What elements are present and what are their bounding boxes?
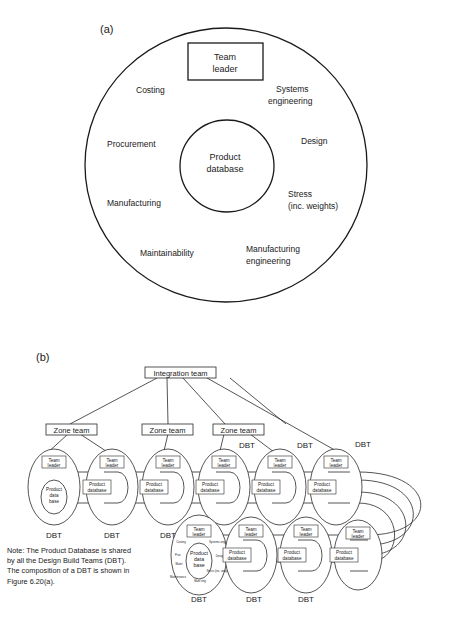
dbt-label: DBT — [298, 595, 314, 604]
function-systems-line1: Systems — [276, 84, 309, 94]
function-mfg-eng-line1: Manufacturing — [246, 244, 300, 254]
dbt-row2-c: Team leader Product database DBT — [278, 517, 332, 604]
svg-text:Product: Product — [336, 550, 353, 555]
svg-text:database: database — [201, 488, 220, 493]
function-costing: Costing — [136, 85, 165, 95]
svg-text:leader: leader — [245, 532, 258, 537]
dbt-label: DBT — [239, 441, 255, 450]
diagram-canvas: (a) Team leader Product database Costing… — [0, 0, 458, 622]
svg-text:base: base — [193, 562, 204, 568]
note-line-2: by all the Design Build Teams (DBT). — [7, 556, 157, 566]
function-procurement: Procurement — [107, 139, 156, 149]
dbt-row-2: Team leader Product data base Costing Sy… — [170, 515, 382, 604]
svg-text:Product: Product — [89, 482, 106, 487]
dbt-2: Team leader Product database DBT — [83, 449, 138, 540]
panel-b-label: (b) — [36, 351, 49, 363]
svg-text:Product: Product — [229, 550, 246, 555]
svg-text:Product: Product — [314, 482, 331, 487]
svg-text:leader: leader — [352, 534, 365, 539]
dbt-row2-d: Team leader Product database — [330, 520, 382, 590]
svg-text:leader: leader — [274, 463, 287, 468]
svg-text:Maint: Maint — [176, 562, 183, 566]
svg-text:data: data — [50, 493, 59, 498]
function-systems-line2: engineering — [268, 96, 313, 106]
svg-text:database: database — [145, 488, 164, 493]
svg-text:Maintenance: Maintenance — [170, 575, 186, 579]
svg-text:database: database — [313, 488, 332, 493]
svg-text:database: database — [88, 488, 107, 493]
svg-text:Product: Product — [202, 482, 219, 487]
svg-text:base: base — [49, 499, 59, 504]
team-leader-line1: Team — [214, 52, 236, 62]
note-line-1: Note: The Product Database is shared — [7, 546, 157, 556]
dbt-1: Team leader Product data base DBT — [28, 449, 80, 540]
svg-text:Manf eng: Manf eng — [194, 579, 206, 583]
svg-text:database: database — [228, 556, 247, 561]
dbt-label: DBT — [355, 440, 371, 449]
function-stress-line1: Stress — [288, 189, 312, 199]
svg-text:Product: Product — [258, 482, 275, 487]
svg-text:Product: Product — [146, 482, 163, 487]
dbt-5: Team leader Product database DBT — [252, 441, 313, 525]
svg-text:leader: leader — [193, 532, 206, 537]
note-line-3: The composition of a DBT is shown in — [7, 566, 157, 576]
dbt-label: DBT — [104, 531, 120, 540]
function-design: Design — [301, 136, 328, 146]
hierarchy-connectors — [45, 378, 340, 455]
product-database-line2: database — [206, 164, 243, 174]
zone-team-label-2: Zone team — [150, 426, 186, 435]
integration-team-label: Integration team — [153, 369, 207, 378]
dbt-4: Team leader Product database DBT — [196, 441, 255, 525]
svg-text:leader: leader — [218, 463, 231, 468]
zone-team-label-1: Zone team — [54, 426, 90, 435]
svg-text:database: database — [257, 488, 276, 493]
svg-text:leader: leader — [48, 463, 61, 468]
function-manufacturing: Manufacturing — [107, 198, 161, 208]
panel-a-label: (a) — [100, 23, 113, 35]
svg-text:database: database — [335, 556, 354, 561]
function-maintainability: Maintainability — [140, 248, 195, 258]
svg-text:Systems eng: Systems eng — [209, 540, 226, 544]
svg-text:leader: leader — [162, 463, 175, 468]
dbt-label: DBT — [246, 595, 262, 604]
dbt-row2-b: Team leader Product database DBT — [223, 517, 277, 604]
team-leader-line2: leader — [212, 64, 237, 74]
svg-text:Proc: Proc — [175, 553, 181, 557]
footnote: Note: The Product Database is shared by … — [7, 546, 157, 587]
svg-text:leader: leader — [300, 532, 313, 537]
dbt-detailed: Team leader Product data base Costing Sy… — [170, 515, 232, 604]
note-line-4: Figure 6.20(a). — [7, 577, 157, 587]
svg-text:Product: Product — [284, 550, 301, 555]
svg-text:Product: Product — [46, 487, 63, 492]
svg-text:Costing: Costing — [176, 540, 186, 544]
dbt-label: DBT — [297, 441, 313, 450]
dbt-6: Team leader Product database DBT — [308, 440, 371, 525]
dbt-label: DBT — [191, 595, 207, 604]
zone-team-label-3: Zone team — [221, 426, 257, 435]
svg-text:leader: leader — [330, 463, 343, 468]
dbt-label: DBT — [46, 531, 62, 540]
svg-text:leader: leader — [106, 463, 119, 468]
product-database-line1: Product — [209, 152, 241, 162]
function-mfg-eng-line2: engineering — [246, 256, 291, 266]
svg-text:database: database — [283, 556, 302, 561]
function-stress-line2: (inc. weights) — [288, 201, 338, 211]
